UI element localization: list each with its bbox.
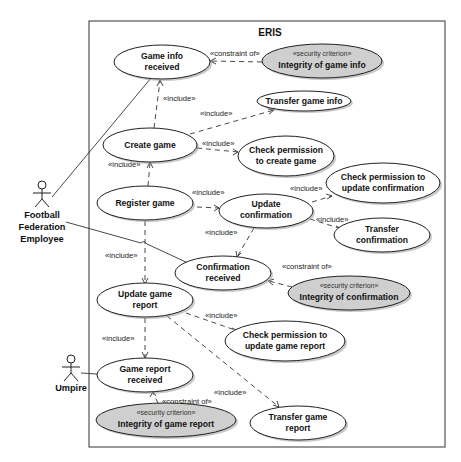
svg-text:Transfer game info: Transfer game info [266, 96, 343, 106]
svg-text:Game report: Game report [119, 364, 170, 374]
svg-text:update game report: update game report [245, 341, 325, 351]
include-label: «include» [105, 251, 138, 260]
include-label: «include» [192, 188, 225, 197]
svg-text:Create game: Create game [124, 140, 176, 150]
use-case-integrity-of-game-report[interactable]: «security criterion» Integrity of game r… [96, 403, 238, 439]
include-label: «include» [205, 311, 238, 320]
include-label: «include» [214, 388, 247, 397]
svg-text:Integrity of game info: Integrity of game info [278, 60, 365, 70]
system-title: ERIS [258, 27, 282, 38]
svg-text:Umpire: Umpire [55, 383, 87, 393]
use-case-integrity-of-game-info[interactable]: «security criterion» Integrity of game i… [262, 44, 384, 80]
svg-text:Employee: Employee [20, 234, 63, 244]
stereotype-label: «security criterion» [293, 50, 352, 58]
include-label: «include» [200, 109, 233, 118]
svg-text:Transfer: Transfer [365, 224, 400, 234]
svg-text:Game info: Game info [141, 51, 183, 61]
svg-text:Update game: Update game [118, 289, 172, 299]
svg-text:to create game: to create game [256, 156, 317, 166]
use-case-integrity-of-confirmation[interactable]: «security criterion» Integrity of confir… [288, 276, 412, 312]
svg-text:Register game: Register game [115, 198, 174, 208]
include-label: «include» [202, 139, 235, 148]
svg-text:Integrity of confirmation: Integrity of confirmation [300, 292, 399, 302]
use-case-diagram: ERIS «include» «include» «include» «incl… [0, 0, 461, 462]
svg-text:Check permission to: Check permission to [243, 330, 328, 340]
actor-football-federation-employee[interactable]: Football Federation Employee [19, 181, 66, 244]
include-label: «include» [163, 94, 196, 103]
svg-text:Update: Update [251, 199, 280, 209]
include-label: «include» [316, 215, 349, 224]
svg-text:Integrity of game report: Integrity of game report [118, 419, 215, 429]
svg-text:Transfer game: Transfer game [269, 412, 328, 422]
include-label: «include» [205, 228, 238, 237]
stick-figure-icon [62, 355, 80, 381]
include-label: «include» [290, 184, 323, 193]
svg-text:Check permission: Check permission [249, 145, 323, 155]
svg-text:received: received [206, 273, 241, 283]
svg-text:received: received [145, 62, 180, 72]
svg-text:Federation: Federation [19, 222, 66, 232]
stick-figure-icon [33, 181, 51, 207]
stereotype-label: «security criterion» [137, 409, 196, 417]
svg-text:report: report [133, 300, 158, 310]
svg-text:Confirmation: Confirmation [196, 262, 249, 272]
svg-text:received: received [128, 375, 163, 385]
use-case-transfer-game-info[interactable]: Transfer game info [257, 91, 353, 113]
include-label: «include» [102, 334, 135, 343]
use-case-check-permission-update-game-report[interactable]: Check permission to update game report [225, 321, 347, 363]
stereotype-label: «security criterion» [320, 282, 379, 290]
svg-text:Football: Football [24, 210, 60, 220]
svg-text:report: report [286, 423, 311, 433]
svg-text:Check permission to: Check permission to [341, 172, 426, 182]
constraint-label: «constraint of» [210, 49, 260, 58]
svg-text:confirmation: confirmation [356, 235, 408, 245]
actor-umpire[interactable]: Umpire [55, 355, 87, 393]
constraint-label: «constraint of» [282, 262, 332, 271]
svg-text:confirmation: confirmation [240, 210, 292, 220]
svg-text:update confirmation: update confirmation [342, 183, 425, 193]
